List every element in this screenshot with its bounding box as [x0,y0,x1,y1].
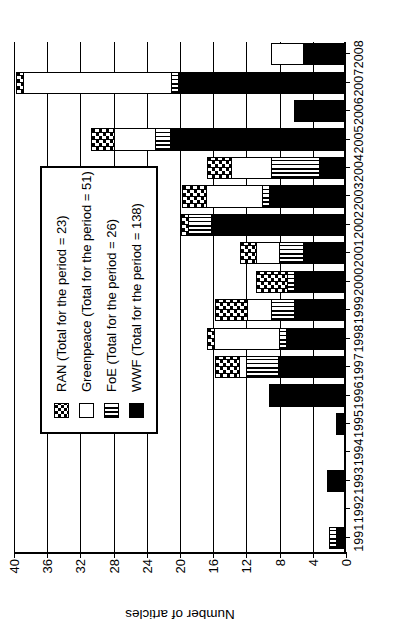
bar-segment-ran [215,299,248,321]
bar-stack [18,72,344,94]
y-tick [147,552,148,558]
x-tick [344,252,350,253]
legend-swatch-foe-icon [104,403,119,418]
x-tick-label: 1999 [352,296,366,324]
bar-segment-wwf [294,271,344,293]
y-tick-label: 36 [40,559,55,573]
legend-box: RAN (Total for the period = 23) Greenpea… [40,166,158,434]
x-tick-label: 2001 [352,239,366,267]
x-tick [344,366,350,367]
x-tick-label: 2004 [352,154,366,182]
x-tick-label: 2000 [352,268,366,296]
x-tick-label: 1994 [352,439,366,467]
bar-segment-wwf [211,214,344,236]
bar-stack [257,271,344,293]
y-tick-label: 32 [73,559,88,573]
rotated-chart-canvas: Number of articles 0481216202428323640 1… [0,0,416,626]
y-tick-label: 4 [305,559,320,566]
bar-segment-greenpeace [271,43,304,65]
x-tick [344,451,350,452]
x-tick [344,195,350,196]
bar-segment-foe [271,157,321,179]
x-tick [344,537,350,538]
x-tick-label: 1991 [352,524,366,552]
y-tick [280,552,281,558]
y-tick [246,552,247,558]
bar-segment-foe [155,128,172,150]
bar-segment-greenpeace [23,72,172,94]
x-tick-label: 2008 [352,40,366,68]
x-tick-label: 1992 [352,495,366,523]
bar-segment-greenpeace [114,128,156,150]
legend-item-foe: FoE (Total for the period = 26) [104,182,119,418]
bar-segment-wwf [319,157,344,179]
y-tick [80,552,81,558]
bar-stack [182,214,344,236]
bar-stack [208,157,344,179]
x-tick [344,480,350,481]
bar-segment-wwf [327,470,344,492]
y-tick-label: 8 [272,559,287,566]
y-tick-label: 16 [206,559,221,573]
legend-item-ran: RAN (Total for the period = 23) [54,182,69,418]
x-tick [344,423,350,424]
legend-swatch-wwf-icon [129,403,144,418]
x-tick-label: 1998 [352,325,366,353]
bar-segment-wwf [294,100,344,122]
y-tick [180,552,181,558]
y-tick [14,552,15,558]
bar-segment-greenpeace [206,185,264,207]
bar-segment-wwf [278,356,344,378]
x-tick [344,309,350,310]
y-tick [213,552,214,558]
bar-segment-foe [188,214,213,236]
legend-swatch-greenpeace-icon [79,403,94,418]
x-tick-label: 2005 [352,126,366,154]
x-tick [344,338,350,339]
bar-segment-wwf [178,72,344,94]
x-tick [344,82,350,83]
bar-stack [296,100,344,122]
bar-segment-wwf [336,413,344,435]
bar-stack [184,185,344,207]
bar-stack [217,299,344,321]
x-tick [344,167,350,168]
x-tick [344,53,350,54]
bar-segment-ran [207,157,232,179]
y-tick [346,552,347,558]
bar-stack [208,328,344,350]
bar-segment-greenpeace [247,299,272,321]
bar-stack [92,128,344,150]
legend-item-greenpeace: Greenpeace (Total for the period = 51) [79,182,94,418]
y-tick-label: 12 [239,559,254,573]
bar-segment-wwf [336,527,344,549]
legend-label-wwf: WWF (Total for the period = 138) [129,203,144,392]
legend-item-wwf: WWF (Total for the period = 138) [129,182,144,418]
bar-segment-wwf [269,384,344,406]
bar-stack [272,43,344,65]
bar-segment-wwf [269,185,344,207]
y-tick [313,552,314,558]
bar-segment-ran [91,128,116,150]
bar-segment-ran [240,242,257,264]
bar-segment-foe [271,299,296,321]
bar-segment-ran [182,185,207,207]
bar-segment-wwf [286,328,344,350]
bar-stack [329,470,344,492]
x-tick-label: 2002 [352,211,366,239]
x-tick [344,508,350,509]
y-tick-label: 28 [106,559,121,573]
x-tick-label: 1995 [352,410,366,438]
bar-segment-foe [246,356,279,378]
bar-segment-foe [279,242,304,264]
bar-stack [217,356,344,378]
x-tick-label: 2007 [352,69,366,97]
y-tick-label: 0 [339,559,354,566]
x-tick [344,139,350,140]
y-axis-title: Number of articles [125,607,235,622]
bar-segment-greenpeace [214,328,280,350]
legend-label-ran: RAN (Total for the period = 23) [54,215,69,392]
bar-segment-ran [215,356,240,378]
y-tick [47,552,48,558]
y-tick-label: 20 [173,559,188,573]
